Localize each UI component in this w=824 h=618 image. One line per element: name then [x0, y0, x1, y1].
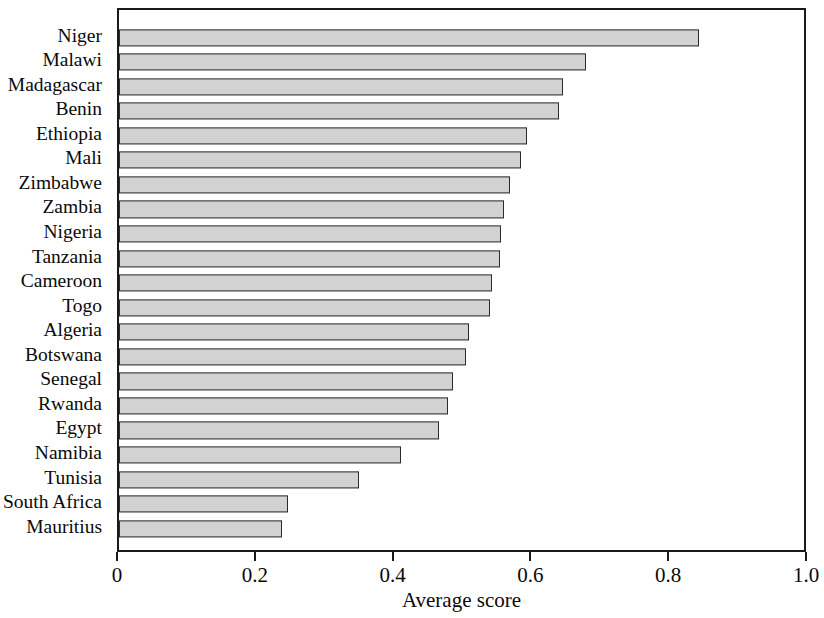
bar [119, 496, 288, 513]
y-tick-label: South Africa [0, 492, 102, 512]
x-tick-mark [529, 552, 531, 561]
y-tick-label: Tunisia [0, 468, 102, 488]
y-axis-category-labels: NigerMalawiMadagascarBeninEthiopiaMaliZi… [0, 8, 110, 552]
x-tick-label: 0.4 [348, 563, 438, 587]
y-tick-label: Botswana [0, 345, 102, 365]
x-tick-label: 1.0 [761, 563, 824, 587]
y-tick-label: Benin [0, 99, 102, 119]
y-tick-label: Ethiopia [0, 124, 102, 144]
bar [119, 520, 282, 537]
x-tick-label: 0.2 [210, 563, 300, 587]
x-tick-mark [116, 552, 118, 561]
plot-area [117, 8, 806, 552]
y-tick-label: Nigeria [0, 222, 102, 242]
bar [119, 127, 527, 144]
x-tick-label: 0 [72, 563, 162, 587]
y-tick-label: Madagascar [0, 75, 102, 95]
y-tick-label: Malawi [0, 50, 102, 70]
bar [119, 225, 501, 242]
bar [119, 299, 490, 316]
x-tick-label: 0.6 [485, 563, 575, 587]
bar [119, 29, 699, 46]
bars-layer [119, 10, 804, 550]
bar [119, 250, 500, 267]
x-axis-title: Average score [117, 588, 806, 612]
y-tick-label: Tanzania [0, 247, 102, 267]
bar [119, 201, 504, 218]
bar [119, 78, 563, 95]
y-tick-label: Rwanda [0, 394, 102, 414]
bar [119, 446, 401, 463]
y-tick-label: Zambia [0, 197, 102, 217]
bar [119, 275, 492, 292]
bar [119, 152, 521, 169]
y-tick-label: Mauritius [0, 517, 102, 537]
y-tick-label: Niger [0, 26, 102, 46]
y-tick-label: Senegal [0, 369, 102, 389]
y-tick-label: Egypt [0, 418, 102, 438]
x-tick-mark [805, 552, 807, 561]
bar [119, 53, 586, 70]
bar [119, 176, 510, 193]
bar [119, 324, 469, 341]
x-tick-mark [254, 552, 256, 561]
x-tick-mark [392, 552, 394, 561]
bar [119, 348, 466, 365]
bar [119, 103, 559, 120]
y-tick-label: Mali [0, 148, 102, 168]
y-tick-label: Togo [0, 296, 102, 316]
bar [119, 422, 439, 439]
y-tick-label: Zimbabwe [0, 173, 102, 193]
x-tick-label: 0.8 [623, 563, 713, 587]
x-tick-mark [667, 552, 669, 561]
y-tick-label: Algeria [0, 320, 102, 340]
bar [119, 397, 448, 414]
bar [119, 373, 453, 390]
y-tick-label: Namibia [0, 443, 102, 463]
bar [119, 471, 359, 488]
y-tick-label: Cameroon [0, 271, 102, 291]
